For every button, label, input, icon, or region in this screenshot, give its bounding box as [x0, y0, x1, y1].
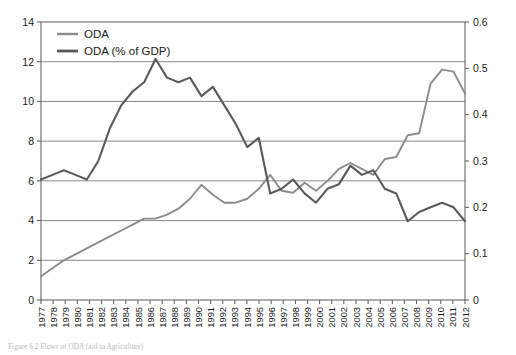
x-axis-label: 1982	[97, 307, 107, 328]
x-axis-label: 1980	[73, 307, 83, 328]
dual-axis-line-chart: 0246810121400.10.20.30.40.50.61977197819…	[0, 0, 516, 355]
x-axis-label: 1993	[230, 307, 240, 328]
x-axis-label: 2003	[352, 307, 362, 328]
chart-plot-area: 0246810121400.10.20.30.40.50.61977197819…	[0, 0, 516, 355]
plot-frame	[41, 22, 465, 300]
x-axis-label: 2010	[436, 307, 446, 328]
y-axis-label-right: 0.5	[473, 62, 488, 74]
legend-label-2: ODA (% of GDP)	[84, 45, 170, 57]
y-axis-label-left: 2	[28, 254, 34, 266]
y-axis-label-right: 0.3	[473, 155, 488, 167]
x-axis-label: 1977	[37, 307, 47, 328]
y-axis-label-left: 10	[22, 95, 34, 107]
x-axis-label: 2007	[400, 307, 410, 328]
x-axis-label: 2005	[376, 307, 386, 328]
x-axis-label: 1984	[121, 307, 131, 328]
x-axis-label: 2000	[315, 307, 325, 328]
x-axis-label: 2009	[424, 307, 434, 328]
x-axis-label: 1990	[194, 307, 204, 328]
x-axis-label: 1991	[206, 307, 216, 328]
x-axis-label: 2012	[461, 307, 471, 328]
x-axis-label: 1989	[182, 307, 192, 328]
x-axis-label: 1987	[158, 307, 168, 328]
x-axis-label: 1992	[218, 307, 228, 328]
x-axis-label: 2004	[364, 307, 374, 328]
x-axis-label: 1994	[243, 307, 253, 328]
x-axis-label: 1979	[61, 307, 71, 328]
x-axis-label: 2011	[448, 307, 458, 327]
x-axis-label: 1978	[49, 307, 59, 328]
x-axis-label: 1998	[291, 307, 301, 328]
y-axis-label-right: 0.6	[473, 16, 488, 28]
figure-caption: Figure 6.2 Flows of ODA (aid to Agricult…	[8, 343, 508, 351]
x-axis-label: 1988	[170, 307, 180, 328]
y-axis-label-left: 12	[22, 56, 34, 68]
chart-figure: 0246810121400.10.20.30.40.50.61977197819…	[0, 0, 516, 355]
y-axis-label-left: 14	[22, 16, 34, 28]
y-axis-label-right: 0.1	[473, 247, 488, 259]
y-axis-label-left: 4	[28, 214, 34, 226]
legend-label-1: ODA	[84, 28, 109, 40]
y-axis-label-left: 6	[28, 175, 34, 187]
x-axis-label: 1997	[279, 307, 289, 328]
y-axis-label-right: 0	[473, 294, 479, 306]
x-axis-label: 1981	[85, 307, 95, 328]
x-axis-label: 1986	[146, 307, 156, 328]
x-axis-label: 1996	[267, 307, 277, 328]
x-axis-label: 2001	[327, 307, 337, 328]
y-axis-label-left: 0	[28, 294, 34, 306]
x-axis-label: 2002	[339, 307, 349, 328]
x-axis-label: 1995	[255, 307, 265, 328]
x-axis-label: 1983	[109, 307, 119, 328]
y-axis-label-right: 0.2	[473, 201, 488, 213]
x-axis-label: 2008	[412, 307, 422, 328]
x-axis-label: 2006	[388, 307, 398, 328]
x-axis-label: 1999	[303, 307, 313, 328]
y-axis-label-right: 0.4	[473, 108, 488, 120]
x-axis-label: 1985	[134, 307, 144, 328]
y-axis-label-left: 8	[28, 135, 34, 147]
